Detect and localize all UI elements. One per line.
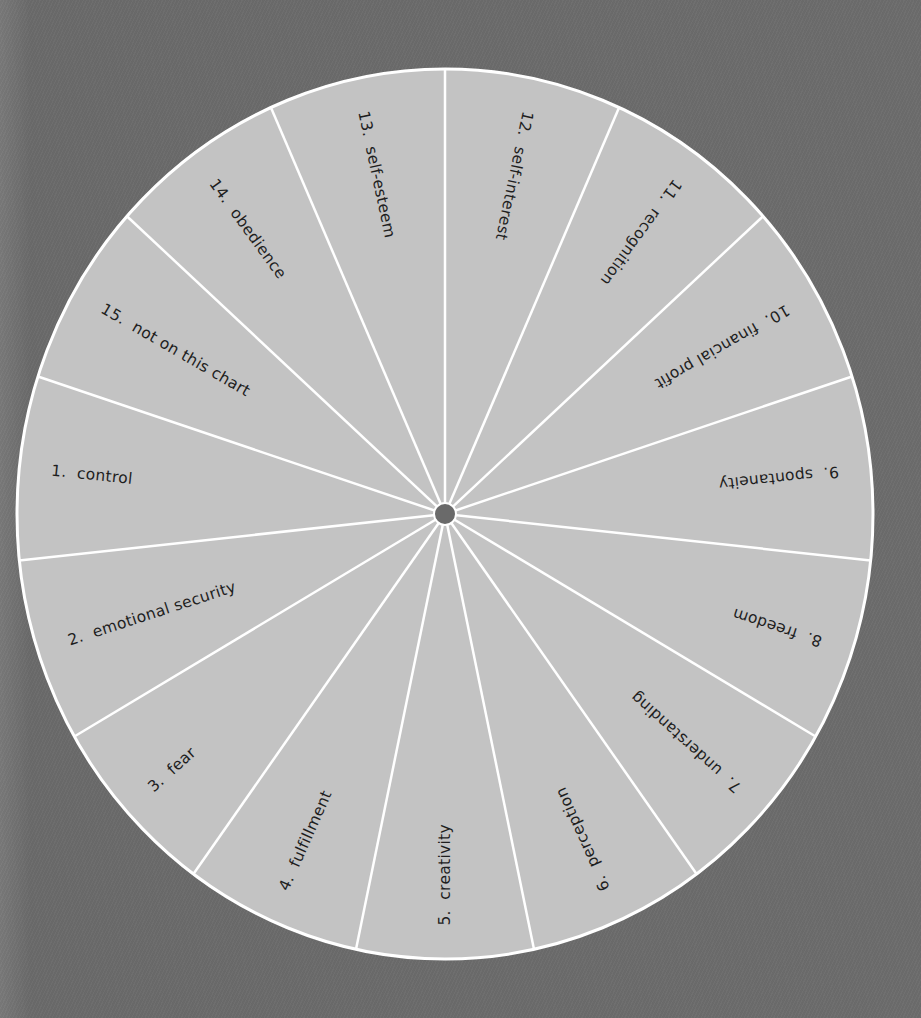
page: 1. control2. emotional security3. fear4.… <box>0 0 921 1018</box>
segment-label: 5. creativity <box>436 824 454 926</box>
hub-dot-icon <box>434 503 456 525</box>
motivation-wheel: 1. control2. emotional security3. fear4.… <box>0 0 921 1018</box>
